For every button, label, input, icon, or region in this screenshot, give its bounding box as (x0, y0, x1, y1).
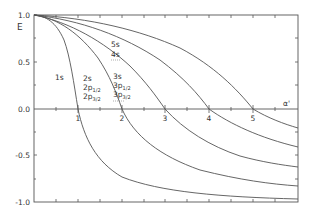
x-ticks (56, 15, 275, 202)
plot-frame (34, 15, 298, 202)
label-3-group: 3s 3p1/2 3p3/2 (113, 72, 131, 101)
x-axis-label: α' (283, 99, 290, 108)
y-tick-label: 0.5 (18, 58, 30, 67)
chart: 1.0 0.5 0.0 -0.5 -1.0 E 1 2 3 4 5 α' 1s … (0, 0, 319, 220)
label-3p32: 3p3/2 (113, 90, 131, 100)
label-5s: 5s (111, 40, 120, 49)
x-tick-label: 5 (251, 114, 256, 123)
label-4s: 4s (111, 50, 120, 59)
x-tick-label: 2 (120, 114, 125, 123)
label-1s: 1s (55, 73, 64, 82)
label-2-group: 2s 2p1/2 2p3/2 (83, 74, 101, 102)
y-tick-label: 0.0 (18, 105, 30, 114)
label-2s: 2s (83, 74, 92, 83)
curve-1s (34, 15, 298, 199)
curve-3s (34, 15, 298, 167)
label-2p32: 2p3/2 (83, 92, 101, 102)
x-tick-label: 4 (207, 114, 212, 123)
y-tick-label: -0.5 (15, 151, 30, 160)
label-3s: 3s (113, 72, 122, 81)
x-tick-label: 3 (163, 114, 168, 123)
y-tick-label: -1.0 (15, 198, 30, 207)
y-axis-label: E (17, 22, 23, 32)
y-tick-label: 1.0 (18, 11, 30, 20)
